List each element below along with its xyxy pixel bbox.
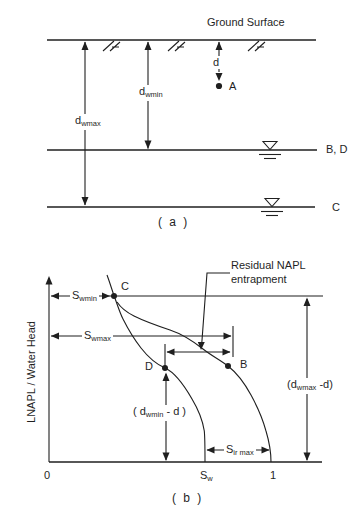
panel-b-caption: ( b ) — [172, 492, 203, 505]
ground-surface-label: Ground Surface — [207, 16, 285, 29]
panel-a-caption: ( a ) — [158, 216, 189, 229]
point-c-level-label: C — [332, 201, 340, 214]
point-a-label: A — [229, 80, 236, 93]
point-b-dot — [225, 363, 231, 369]
x-tick-one: 1 — [270, 469, 276, 482]
point-c-dot — [111, 293, 117, 299]
point-d-label: D — [145, 360, 153, 373]
y-axis — [46, 276, 53, 462]
y-axis-label: LNAPL / Water Head — [25, 321, 38, 423]
point-c-label: C — [121, 280, 129, 293]
curve-right-b — [117, 302, 271, 462]
residual-napl-annotation: Residual NAPL entrapment — [231, 258, 306, 286]
d-label: d — [211, 56, 221, 69]
lnapl-figure: Ground Surface dwmax dwmin d A B, D C ( … — [0, 0, 361, 525]
curve-left-cd — [107, 275, 205, 462]
sirmax-label: Sir max — [224, 443, 256, 459]
swmax-label: Swmax — [82, 329, 113, 345]
x-tick-sw: Sw — [200, 469, 213, 485]
dwmax-label: dwmax — [73, 114, 103, 130]
point-b-label: B — [240, 358, 247, 371]
dwmin-minus-d-label: ( dwmin - d ) — [131, 405, 188, 421]
entrapment-arrow — [165, 344, 231, 366]
dwmin-label: dwmin — [137, 85, 165, 101]
point-d-dot — [162, 365, 168, 371]
point-bd-label: B, D — [326, 143, 347, 156]
dwmax-minus-d-label: (dwmax -d) — [285, 378, 335, 394]
swmin-label: Swmin — [70, 289, 99, 305]
ground-hatch-icon — [103, 41, 265, 51]
figure-drawing — [0, 0, 361, 525]
x-tick-zero: 0 — [44, 469, 50, 482]
point-a-dot — [216, 83, 222, 89]
